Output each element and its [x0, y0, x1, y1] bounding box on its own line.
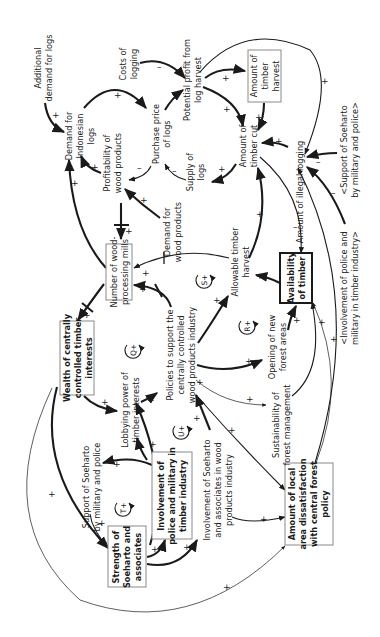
- svg-text:log harvest: log harvest: [193, 56, 203, 103]
- svg-text:with central forest: with central forest: [309, 461, 319, 547]
- svg-text:timber: timber: [260, 62, 270, 90]
- svg-text:Additional: Additional: [33, 47, 43, 88]
- sign: –: [316, 157, 321, 167]
- svg-text:timber cut: timber cut: [249, 124, 259, 167]
- sign: +: [275, 136, 283, 146]
- svg-text:harvest: harvest: [241, 246, 251, 278]
- sign: –: [157, 62, 162, 72]
- var-involvement-ghost: <Involvement of police and military in t…: [339, 231, 360, 345]
- sign: +: [113, 459, 121, 469]
- link-mills-to-demand: [69, 160, 106, 268]
- link-involvement-to-support: [103, 459, 152, 465]
- link-policies-to-sustainability: [196, 380, 266, 405]
- sign: +: [193, 413, 201, 423]
- svg-text:wood products industry: wood products industry: [187, 307, 197, 404]
- var-support-soeharto: Support of Soeharto by military and poli…: [81, 443, 102, 532]
- box-availability: [280, 253, 312, 303]
- svg-text:centrally controlled: centrally controlled: [176, 315, 186, 394]
- var-supply-logs: Supply of logs: [185, 152, 206, 192]
- loop-q: Q+: [125, 344, 141, 358]
- svg-text:Amount of: Amount of: [249, 54, 259, 98]
- svg-text:Soeharto and: Soeharto and: [122, 526, 132, 588]
- svg-text:forest areas: forest areas: [278, 323, 288, 372]
- sign: +: [222, 73, 230, 83]
- svg-text:wood products: wood products: [173, 202, 183, 262]
- sign: +: [147, 395, 155, 405]
- link-mills-to-wealth: [78, 284, 104, 320]
- svg-text:Demand for: Demand for: [64, 111, 74, 160]
- var-sustainability: Sustainability of forest management: [271, 384, 292, 466]
- sign: +: [246, 394, 254, 404]
- svg-text:military in timber industry>: military in timber industry>: [350, 231, 360, 345]
- var-strength: Strength of Soeharto and associates: [111, 526, 143, 588]
- svg-text:of timber: of timber: [297, 256, 307, 300]
- sign: +: [330, 334, 338, 344]
- var-opening-forest: Opening of new forest areas: [267, 314, 288, 379]
- sign: +: [213, 295, 221, 305]
- loop-t: T+: [115, 503, 131, 517]
- var-involvement-soeharto: Involvement of Soeharto and associates i…: [202, 439, 234, 540]
- svg-text:logging: logging: [129, 49, 139, 79]
- svg-text:Profitability of: Profitability of: [102, 133, 112, 191]
- sign: +: [149, 439, 157, 449]
- sign: +: [114, 90, 122, 100]
- svg-text:forest management: forest management: [282, 384, 292, 466]
- sign: +: [245, 356, 253, 366]
- svg-text:by military and police: by military and police: [92, 443, 102, 532]
- svg-text:demand for logs: demand for logs: [44, 35, 54, 102]
- var-wood-mills: Number of wood- processing mills: [109, 237, 130, 308]
- svg-text:policy: policy: [320, 490, 330, 518]
- svg-text:associates: associates: [133, 533, 143, 582]
- sign: +: [151, 544, 159, 554]
- svg-text:Availability: Availability: [286, 252, 296, 304]
- svg-text:<Support of Soeharto: <Support of Soeharto: [339, 105, 349, 194]
- svg-text:products industry: products industry: [224, 454, 234, 526]
- sign: +: [223, 104, 231, 114]
- svg-text:Lobbying power of: Lobbying power of: [120, 371, 130, 448]
- link-involvementsoeharto-to-dissatisfaction: [232, 517, 285, 521]
- svg-text:harvest: harvest: [271, 60, 281, 92]
- sign: –: [172, 166, 177, 176]
- loop-s: S+: [196, 274, 212, 288]
- sign: +: [48, 489, 56, 499]
- svg-text:logs: logs: [196, 164, 206, 181]
- sign: +: [140, 195, 148, 205]
- loop-u: U+: [173, 425, 189, 439]
- svg-text:interests: interests: [84, 337, 94, 378]
- svg-text:Sustainability of: Sustainability of: [271, 391, 281, 458]
- svg-text:Q+: Q+: [129, 344, 138, 356]
- svg-text:Involvement of Soeharto: Involvement of Soeharto: [202, 439, 212, 540]
- sign: +: [91, 162, 99, 172]
- svg-text:logs: logs: [86, 128, 96, 145]
- var-support-ghost: <Support of Soeharto by military and pol…: [339, 102, 360, 198]
- sign: +: [223, 582, 231, 592]
- svg-text:Purchase price: Purchase price: [151, 104, 161, 164]
- var-additional-demand: Additional demand for logs: [33, 35, 54, 102]
- svg-text:by military and police>: by military and police>: [350, 102, 360, 198]
- svg-text:area dissatisfaction: area dissatisfaction: [298, 458, 308, 549]
- svg-text:<Involvement of police and: <Involvement of police and: [339, 231, 349, 344]
- svg-text:and associates in wood: and associates in wood: [213, 442, 223, 537]
- var-costs-logging: Costs of logging: [118, 46, 139, 80]
- svg-text:police and military in: police and military in: [167, 447, 177, 545]
- sign: +: [125, 226, 133, 236]
- link-price-to-profit: [165, 90, 183, 110]
- svg-text:Amount of local: Amount of local: [287, 468, 297, 541]
- sign: +: [52, 110, 60, 120]
- sign: +: [318, 317, 326, 327]
- svg-text:timber industry: timber industry: [178, 459, 188, 532]
- svg-text:Opening of new: Opening of new: [267, 314, 277, 379]
- svg-text:Policies to support the: Policies to support the: [165, 309, 175, 400]
- var-allowable-harvest: Allowable timber harvest: [230, 227, 251, 297]
- svg-text:Support of Soeharto: Support of Soeharto: [81, 446, 91, 529]
- svg-text:processing mills: processing mills: [120, 239, 130, 305]
- sign: +: [71, 178, 79, 188]
- svg-text:Amount of illegal logging: Amount of illegal logging: [295, 141, 305, 244]
- svg-text:controlled timber: controlled timber: [73, 317, 83, 398]
- link-supportghost-to-illegal: [307, 153, 337, 157]
- sign: +: [183, 542, 191, 552]
- sign: +: [321, 76, 329, 86]
- loop-r: R+: [239, 320, 255, 334]
- svg-text:T+: T+: [119, 503, 128, 515]
- svg-text:Number of wood-: Number of wood-: [109, 237, 119, 308]
